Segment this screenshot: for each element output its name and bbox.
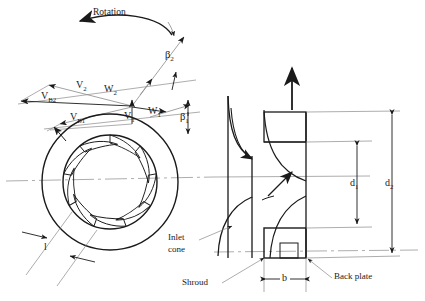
figure-canvas: Rotation β2 β1 V2 W2 VB2 V1 W1 VB1 l d1 … — [0, 0, 425, 301]
diagram-vector-layer — [0, 0, 425, 301]
inlet-cone-label-line1: Inlet — [168, 233, 185, 242]
back-plate-label: Back plate — [334, 272, 372, 281]
blade-length-dimension — [22, 212, 97, 286]
beta-1-label: β1 — [180, 112, 189, 125]
rotation-label: Rotation — [93, 8, 126, 18]
rotation-arrow — [80, 15, 174, 36]
v2-label: V2 — [76, 80, 87, 93]
inlet-cone-label-line2: cone — [168, 245, 185, 254]
vb2-label: VB2 — [41, 91, 56, 104]
vb1-label: VB1 — [70, 112, 85, 125]
d2-label: d2 — [385, 178, 393, 191]
w2-label: W2 — [104, 84, 117, 97]
impeller-plan-view — [6, 114, 214, 250]
beta-2-label: β2 — [165, 50, 174, 63]
w1-label: W1 — [148, 106, 161, 119]
b-label: b — [282, 273, 287, 283]
impeller-section-view — [214, 68, 418, 258]
shroud-label: Shroud — [182, 278, 208, 287]
blade-length-label: l — [44, 242, 47, 252]
v1-label: V1 — [124, 111, 135, 124]
d1-label: d1 — [350, 178, 358, 191]
part-leader-lines — [199, 226, 332, 283]
inlet-velocity-triangle — [44, 100, 200, 141]
